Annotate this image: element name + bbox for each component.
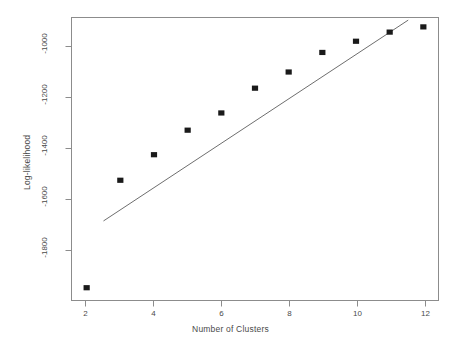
data-point <box>252 86 258 91</box>
scatter-plot-canvas <box>0 0 461 356</box>
x-axis-ticks <box>86 301 426 307</box>
data-point <box>117 178 123 183</box>
x-tick-label-8: 8 <box>275 309 304 318</box>
data-point <box>185 128 191 133</box>
data-point <box>420 24 426 29</box>
y-axis-ticks <box>66 47 72 251</box>
y-tick-label--1800: -1800 <box>40 232 49 264</box>
data-point <box>218 110 224 115</box>
data-point <box>353 39 359 44</box>
y-tick-label--1200: -1200 <box>40 79 49 111</box>
data-point <box>84 285 90 290</box>
fitted-regression-line <box>103 20 408 221</box>
x-tick-label-4: 4 <box>139 309 168 318</box>
x-tick-label-10: 10 <box>343 309 372 318</box>
x-tick-label-12: 12 <box>411 309 440 318</box>
data-point <box>319 50 325 55</box>
data-point-group <box>84 24 427 290</box>
data-point <box>286 69 292 74</box>
x-tick-label-2: 2 <box>71 309 100 318</box>
y-tick-label--1600: -1600 <box>40 181 49 213</box>
x-axis-title: Number of Clusters <box>0 324 461 334</box>
data-point <box>387 30 393 35</box>
y-tick-label--1400: -1400 <box>40 130 49 162</box>
y-axis-title: Log-likelihood <box>22 135 32 190</box>
chart-figure: -1000 -1200 -1400 -1600 -1800 2 4 6 8 10… <box>0 0 461 356</box>
data-point <box>151 152 157 157</box>
y-tick-label--1000: -1000 <box>40 28 49 60</box>
x-tick-label-6: 6 <box>207 309 236 318</box>
plot-frame <box>72 18 439 301</box>
